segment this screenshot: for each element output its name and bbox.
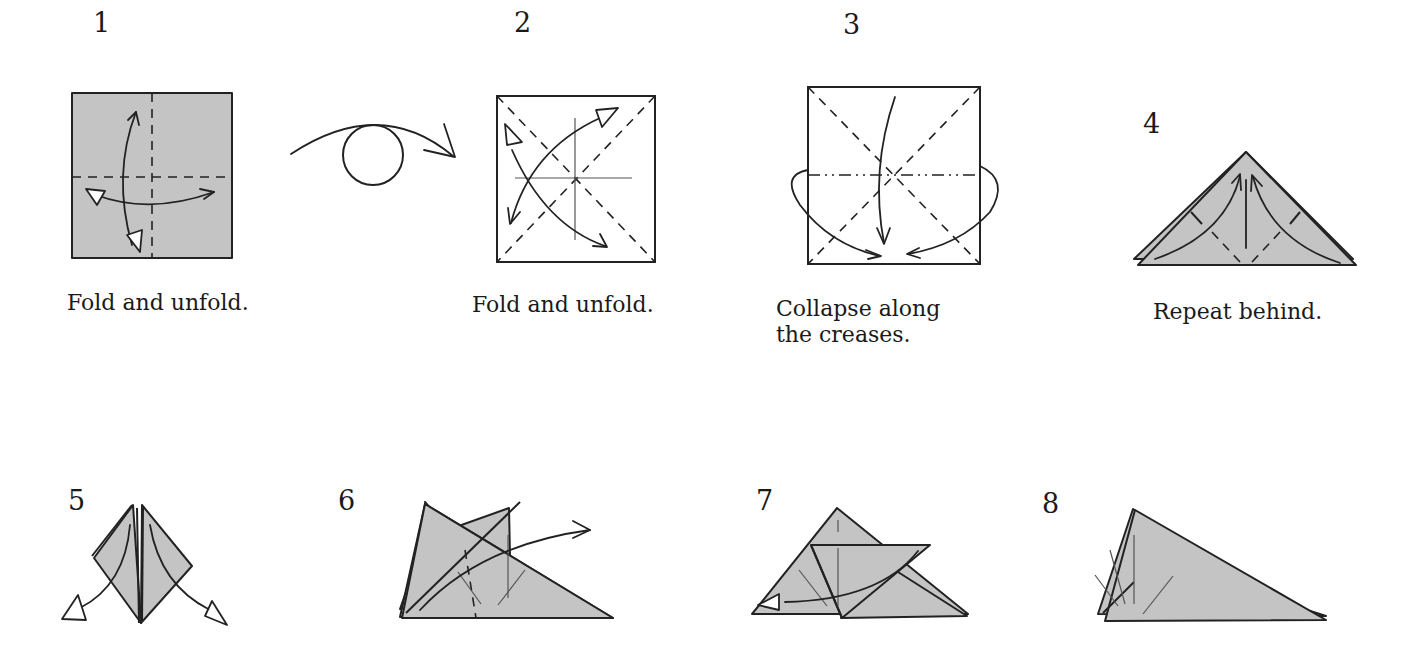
arrowhead-icon (424, 124, 455, 157)
step-3-figure (792, 87, 998, 264)
step-8-figure (1095, 509, 1326, 621)
step-1-figure (72, 93, 232, 258)
hollow-arrowhead-icon (205, 601, 227, 625)
step-6-figure (400, 502, 613, 618)
arrowhead-icon (573, 521, 590, 538)
circle-icon (343, 125, 403, 185)
waterbomb-base (1138, 152, 1356, 265)
step-4-figure (1134, 152, 1356, 265)
step-7-figure (752, 508, 968, 618)
center-edge (142, 508, 143, 622)
step-2-figure (497, 96, 655, 262)
right-flap (141, 505, 192, 623)
final-triangle (1105, 510, 1326, 621)
hollow-arrowhead-icon (62, 595, 86, 620)
diagram-canvas (0, 0, 1412, 648)
turn-over-symbol-icon (291, 124, 455, 185)
step-5-figure (62, 505, 227, 625)
